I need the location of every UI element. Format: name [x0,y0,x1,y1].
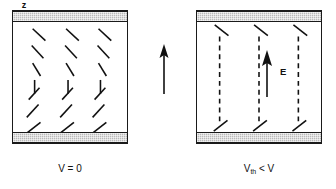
caption-right-suffix: < V [256,163,274,174]
efield-arrow [258,46,276,98]
caption-left-text: V = 0 [58,163,82,174]
cell-left-panel [12,10,128,144]
caption-right-panel: Vth < V [196,163,322,174]
z-axis-arrow [140,34,188,96]
director-field-left [13,11,127,143]
electrode-top-right [197,11,321,22]
caption-left-panel: V = 0 [12,163,128,174]
z-axis-label: z [0,0,48,10]
electrode-bottom-right [197,132,321,143]
liquid-crystal-figure: z E V = 0 Vth < V [0,0,336,189]
efield-label: E [280,66,286,77]
electrode-bottom-left [13,132,127,143]
caption-right-subscript: th [250,168,256,175]
electrode-top-left [13,11,127,22]
